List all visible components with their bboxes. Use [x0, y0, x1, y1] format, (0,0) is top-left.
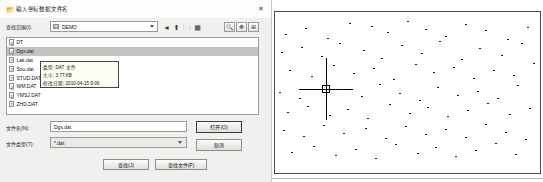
survey-point: [457, 95, 459, 96]
open-file-dialog: 📂 输入坐标数据文件名 ✕ 查找范围(I): DEMO ◄ ⬆ 🗀 ▦ 🔍 ✥ …: [0, 0, 272, 182]
drawing-bottom-edge: [272, 178, 543, 179]
file-tooltip: 类型: DAT 文件 大小: 3.77 KB 修改日期: 2010-04-15 …: [40, 61, 119, 88]
survey-point: [311, 76, 313, 77]
new-folder-icon[interactable]: 🗀: [182, 23, 191, 32]
pan-preview-button[interactable]: ✥: [236, 22, 247, 32]
folder-open-icon: 📂: [6, 6, 13, 13]
cancel-button[interactable]: 取消: [196, 139, 242, 151]
survey-point: [363, 50, 365, 51]
survey-point: [353, 73, 355, 74]
survey-point: [343, 133, 345, 134]
survey-point: [327, 38, 329, 39]
survey-point: [437, 87, 439, 88]
survey-point: [291, 152, 293, 153]
tooltip-date: 修改日期: 2010-04-15 9:06: [43, 80, 116, 88]
fit-preview-button[interactable]: ⊞: [248, 22, 259, 32]
survey-point: [493, 70, 495, 71]
file-list-item[interactable]: Dgx.dat: [7, 47, 258, 56]
survey-point: [433, 72, 435, 73]
close-icon[interactable]: ✕: [257, 5, 265, 13]
survey-point: [303, 136, 305, 137]
survey-point: [407, 21, 409, 22]
survey-point: [527, 27, 529, 28]
survey-point: [373, 68, 375, 69]
survey-point: [425, 29, 427, 30]
file-icon: [9, 57, 14, 63]
survey-point: [425, 134, 427, 135]
tooltip-type: 类型: DAT 文件: [43, 64, 116, 72]
survey-point: [435, 147, 437, 148]
survey-point: [409, 113, 411, 114]
survey-point: [405, 126, 407, 127]
survey-point: [341, 89, 343, 90]
up-folder-icon[interactable]: ⬆: [172, 23, 181, 32]
survey-point: [371, 26, 373, 27]
file-list-item[interactable]: DT: [7, 38, 258, 47]
file-list-item[interactable]: YMSJ.DAT: [7, 91, 258, 100]
survey-point: [445, 129, 447, 130]
file-name-label: DT: [17, 39, 24, 45]
survey-point: [507, 39, 509, 40]
survey-point: [283, 130, 285, 131]
survey-point: [447, 116, 449, 117]
open-button[interactable]: 打开(O): [196, 121, 242, 133]
survey-point: [415, 64, 417, 65]
survey-point: [501, 55, 503, 56]
survey-point: [329, 115, 331, 116]
survey-point: [395, 144, 397, 145]
survey-point: [301, 47, 303, 48]
survey-point: [289, 70, 291, 71]
survey-point: [305, 28, 307, 29]
file-name-label: WM.DAT: [17, 83, 37, 89]
survey-point: [393, 79, 395, 80]
lookin-label: 查找范围(I):: [6, 23, 32, 30]
survey-point: [279, 92, 281, 93]
survey-point: [333, 65, 335, 66]
survey-point: [399, 93, 401, 94]
survey-point: [417, 153, 419, 154]
filetype-dropdown[interactable]: *.dat: [50, 137, 187, 148]
survey-point: [299, 98, 301, 99]
survey-point: [453, 67, 455, 68]
survey-point: [517, 85, 519, 86]
file-icon: [9, 66, 14, 72]
lookin-dropdown[interactable]: DEMO: [50, 21, 158, 32]
survey-point: [307, 106, 309, 107]
survey-point: [461, 59, 463, 60]
survey-point: [439, 41, 441, 42]
survey-point: [339, 43, 341, 44]
survey-point: [385, 138, 387, 139]
file-icon: [9, 39, 14, 45]
views-icon[interactable]: ▦: [193, 23, 202, 32]
dialog-titlebar: 📂 输入坐标数据文件名: [0, 0, 271, 18]
file-list-item[interactable]: ZHD.DAT: [7, 100, 258, 109]
zoom-preview-button[interactable]: 🔍: [224, 22, 235, 32]
survey-point: [361, 96, 363, 97]
chevron-down-icon: [150, 25, 154, 28]
drawing-frame: [274, 11, 541, 174]
survey-point: [285, 34, 287, 35]
cad-drawing-area[interactable]: [272, 0, 543, 182]
survey-point: [387, 32, 389, 33]
survey-point: [485, 124, 487, 125]
file-icon: [9, 48, 14, 54]
survey-point: [389, 104, 391, 105]
survey-point: [485, 30, 487, 31]
survey-point: [287, 112, 289, 113]
search-button[interactable]: 查找(J): [103, 159, 149, 170]
survey-point: [521, 43, 523, 44]
filename-input[interactable]: Dgx.dat: [50, 121, 187, 132]
survey-point: [349, 23, 351, 24]
survey-point: [509, 114, 511, 115]
back-icon[interactable]: ◄: [162, 23, 171, 32]
survey-point: [281, 52, 283, 53]
survey-point: [355, 149, 357, 150]
file-icon: [9, 101, 14, 107]
search-file-button[interactable]: 查找文件(P): [155, 159, 207, 170]
file-name-label: ZHD.DAT: [17, 101, 38, 107]
file-name-label: Dgx.dat: [17, 48, 34, 54]
survey-point: [487, 103, 489, 104]
filetype-label: 文件类型(T):: [6, 140, 34, 147]
survey-point: [335, 155, 337, 156]
survey-point: [467, 110, 469, 111]
